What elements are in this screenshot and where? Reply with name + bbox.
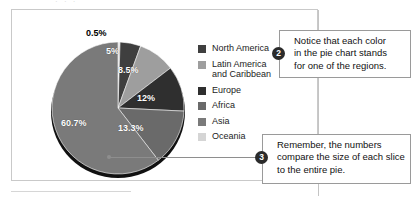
legend-swatch-icon [198, 118, 206, 126]
legend-item-europe[interactable]: Europe [198, 85, 290, 96]
cropped-header-text: · · · [55, 0, 285, 4]
legend-label: Oceania [212, 131, 246, 142]
callout-3-tick-bottom [318, 184, 319, 196]
legend-swatch-icon [198, 133, 206, 141]
callout-2-line-3: for one of the regions. [294, 60, 405, 72]
legend-label-group: Latin Americaand Caribbean [212, 59, 271, 80]
legend-label-line2: and Caribbean [212, 69, 271, 80]
legend-item-asia[interactable]: Asia [198, 116, 290, 127]
callout-3-line-3: to the entire pie. [277, 164, 405, 176]
legend-label: Latin America [212, 59, 267, 69]
callout-2-line-1: Notice that each color [294, 35, 405, 47]
figure-stage: · · · 0.5% [0, 0, 411, 200]
pie-label-europe: 12% [137, 93, 155, 103]
legend-label: North America [212, 43, 269, 54]
legend-swatch-icon [198, 45, 206, 53]
legend-item-latin-america[interactable]: Latin Americaand Caribbean [198, 59, 290, 80]
pie-slices [52, 42, 184, 174]
pie-label-asia: 60.7% [61, 118, 87, 128]
pie-label-oceania: 0.5% [86, 28, 107, 38]
callout-2-tick-top [318, 10, 319, 30]
footer-rule [11, 191, 131, 192]
callout-3-number-badge: 3 [255, 151, 268, 164]
callout-2-text: Notice that each color in the pie chart … [280, 31, 410, 76]
legend-swatch-icon [198, 102, 206, 110]
legend-label: Europe [212, 85, 241, 96]
pie-svg [48, 38, 188, 180]
pie-label-africa: 13.3% [118, 123, 144, 133]
callout-2-tick-bottom [318, 78, 319, 134]
callout-3-text: Remember, the numbers compare the size o… [263, 135, 410, 180]
pie-label-north-america: 5% [106, 46, 119, 56]
callout-2-line-2: in the pie chart stands [294, 47, 405, 59]
callout-3-line-1: Remember, the numbers [277, 139, 405, 151]
pie-label-latin-america: 8.5% [118, 65, 139, 75]
callout-box-2: Notice that each color in the pie chart … [279, 30, 411, 78]
legend-swatch-icon [198, 87, 206, 95]
legend-label: Asia [212, 116, 230, 127]
callout-3-leader-dot [107, 155, 111, 159]
legend-item-africa[interactable]: Africa [198, 100, 290, 111]
legend-swatch-icon [198, 61, 206, 69]
callout-box-3: Remember, the numbers compare the size o… [262, 134, 411, 184]
callout-3-line-2: compare the size of each slice [277, 151, 405, 163]
callout-2-number-badge: 2 [272, 47, 285, 60]
pie-chart: 0.5% 5% 8.5% 12% 13.3% 60.7% [48, 38, 188, 180]
callout-3-leader-line [109, 157, 256, 158]
legend-label: Africa [212, 100, 235, 111]
